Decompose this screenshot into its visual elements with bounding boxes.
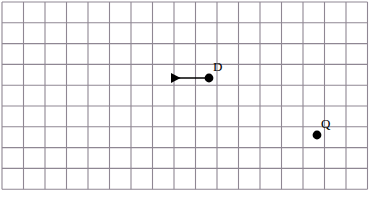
point-q bbox=[313, 131, 322, 140]
point-d bbox=[205, 74, 214, 83]
point-label-q: Q bbox=[321, 117, 330, 130]
diagram-canvas: D Q bbox=[0, 0, 378, 203]
points-and-vectors-overlay bbox=[0, 0, 378, 203]
point-label-d: D bbox=[213, 60, 222, 73]
